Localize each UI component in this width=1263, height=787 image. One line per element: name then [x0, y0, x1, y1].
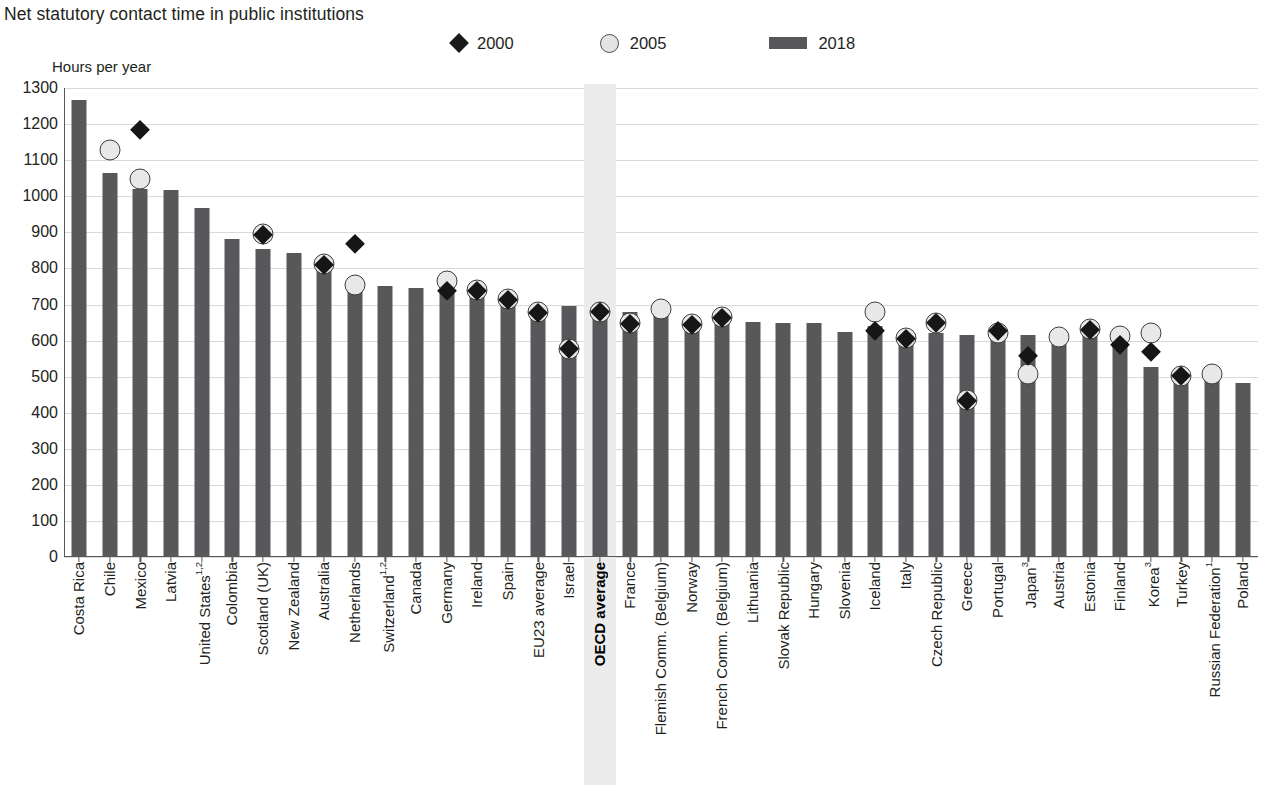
bar-column[interactable] [615, 88, 646, 557]
bar-2018[interactable] [1235, 383, 1250, 557]
bar-column[interactable] [952, 88, 983, 557]
bar-column[interactable] [156, 88, 187, 557]
circle-marker-2005[interactable] [344, 274, 365, 295]
bar-column[interactable] [676, 88, 707, 557]
bar-2018[interactable] [745, 322, 760, 557]
bar-2018[interactable] [592, 312, 607, 557]
bar-2018[interactable] [255, 249, 270, 558]
circle-marker-2005[interactable] [1018, 363, 1039, 384]
bar-column[interactable] [1227, 88, 1258, 557]
bar-2018[interactable] [286, 253, 301, 557]
bar-2018[interactable] [164, 190, 179, 557]
bar-column[interactable] [921, 88, 952, 557]
bar-column[interactable] [1074, 88, 1105, 557]
y-axis-tick-label: 400 [0, 404, 58, 422]
bar-2018[interactable] [72, 100, 87, 558]
bar-2018[interactable] [500, 298, 515, 557]
bar-2018[interactable] [1205, 374, 1220, 557]
bar-2018[interactable] [1143, 367, 1158, 558]
bar-column[interactable] [1044, 88, 1075, 557]
bar-column[interactable] [1136, 88, 1167, 557]
bar-2018[interactable] [378, 286, 393, 557]
bar-column[interactable] [585, 88, 616, 557]
bar-2018[interactable] [439, 289, 454, 557]
bar-2018[interactable] [531, 306, 546, 558]
bar-2018[interactable] [347, 286, 362, 557]
x-axis-category-label: Australia [316, 562, 331, 620]
x-axis-category-label: Canada [408, 562, 423, 615]
x-axis-category-label: OECD average [592, 562, 607, 666]
bar-column[interactable] [891, 88, 922, 557]
bar-column[interactable] [799, 88, 830, 557]
x-axis-category-label: Finland [1112, 562, 1127, 611]
circle-marker-2005[interactable] [650, 298, 671, 319]
x-axis-category-label: Turkey [1174, 562, 1189, 607]
bar-column[interactable] [554, 88, 585, 557]
bar-column[interactable] [462, 88, 493, 557]
bar-2018[interactable] [653, 311, 668, 557]
circle-marker-2005[interactable] [865, 302, 886, 323]
bar-column[interactable] [1013, 88, 1044, 557]
bar-column[interactable] [401, 88, 432, 557]
y-axis-tick-label: 200 [0, 476, 58, 494]
bar-2018[interactable] [898, 334, 913, 557]
chart-root: Net statutory contact time in public ins… [0, 0, 1263, 787]
bar-2018[interactable] [317, 263, 332, 557]
diamond-marker-2000[interactable] [1141, 342, 1160, 361]
bar-2018[interactable] [1051, 337, 1066, 557]
bar-2018[interactable] [1082, 333, 1097, 557]
bar-column[interactable] [493, 88, 524, 557]
bar-column[interactable] [95, 88, 126, 557]
bar-2018[interactable] [1174, 375, 1189, 557]
circle-marker-2005[interactable] [1048, 326, 1069, 347]
bar-2018[interactable] [225, 239, 240, 557]
bar-column[interactable] [1197, 88, 1228, 557]
bar-column[interactable] [340, 88, 371, 557]
bar-2018[interactable] [929, 333, 944, 557]
bar-2018[interactable] [684, 323, 699, 557]
bar-column[interactable] [707, 88, 738, 557]
circle-marker-2005[interactable] [130, 168, 151, 189]
bar-2018[interactable] [470, 293, 485, 557]
bar-2018[interactable] [194, 208, 209, 557]
bar-2018[interactable] [776, 323, 791, 558]
bar-2018[interactable] [102, 173, 117, 557]
bar-column[interactable] [248, 88, 279, 557]
circle-marker-2005[interactable] [99, 140, 120, 161]
bar-column[interactable] [187, 88, 218, 557]
bar-column[interactable] [860, 88, 891, 557]
bar-column[interactable] [370, 88, 401, 557]
bar-column[interactable] [829, 88, 860, 557]
bar-2018[interactable] [807, 323, 822, 557]
diamond-marker-2000[interactable] [131, 120, 150, 139]
y-axis-tick-label: 1100 [0, 151, 58, 169]
x-axis-category-label: Greece [959, 562, 974, 611]
bar-column[interactable] [646, 88, 677, 557]
bar-column[interactable] [217, 88, 248, 557]
bar-column[interactable] [1105, 88, 1136, 557]
bar-2018[interactable] [837, 332, 852, 557]
bar-2018[interactable] [1113, 340, 1128, 557]
bar-column[interactable] [125, 88, 156, 557]
circle-marker-2005[interactable] [1202, 363, 1223, 384]
circle-marker-2005[interactable] [1140, 322, 1161, 343]
bar-column[interactable] [738, 88, 769, 557]
diamond-marker-2000[interactable] [345, 234, 364, 253]
bar-2018[interactable] [960, 335, 975, 557]
bar-2018[interactable] [990, 333, 1005, 557]
bar-column[interactable] [278, 88, 309, 557]
bar-column[interactable] [1166, 88, 1197, 557]
bar-column[interactable] [64, 88, 95, 557]
bar-2018[interactable] [409, 288, 424, 557]
bar-2018[interactable] [133, 189, 148, 557]
bar-column[interactable] [523, 88, 554, 557]
bar-2018[interactable] [868, 326, 883, 557]
x-axis-category-label: France [622, 562, 637, 609]
bar-2018[interactable] [623, 312, 638, 557]
bar-column[interactable] [431, 88, 462, 557]
bar-column[interactable] [309, 88, 340, 557]
bar-2018[interactable] [715, 317, 730, 557]
bar-column[interactable] [983, 88, 1014, 557]
x-axis-category-label: Italy [898, 562, 913, 590]
bar-column[interactable] [768, 88, 799, 557]
